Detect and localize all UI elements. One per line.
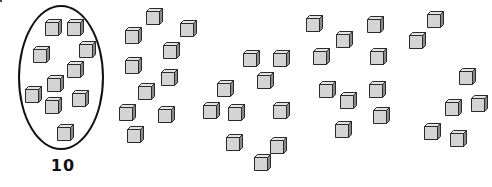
cube-icon bbox=[217, 80, 234, 97]
cube-icon bbox=[25, 86, 42, 103]
cube-icon bbox=[367, 16, 384, 33]
cube-icon bbox=[306, 15, 323, 32]
cube-icon bbox=[424, 123, 441, 140]
cube-icon bbox=[273, 50, 290, 67]
cube-icon bbox=[471, 95, 488, 112]
cube-icon bbox=[450, 130, 467, 147]
cube-icon bbox=[335, 121, 352, 138]
cube-icon bbox=[257, 72, 274, 89]
cube-icon bbox=[459, 68, 476, 85]
cube-icon bbox=[313, 48, 330, 65]
cube-icon bbox=[228, 104, 245, 121]
cube-icon bbox=[127, 126, 144, 143]
cube-icon bbox=[273, 102, 290, 119]
cube-icon bbox=[336, 31, 353, 48]
cube-icon bbox=[125, 27, 142, 44]
cube-icon bbox=[72, 90, 89, 107]
cube-icon bbox=[370, 48, 387, 65]
cube-icon bbox=[180, 20, 197, 37]
cube-icon bbox=[226, 134, 243, 151]
cube-icon bbox=[67, 61, 84, 78]
cube-icon bbox=[427, 11, 444, 28]
cube-icon bbox=[119, 104, 136, 121]
cube-icon bbox=[67, 19, 84, 36]
cube-icon bbox=[340, 92, 357, 109]
corner-mark bbox=[0, 0, 2, 2]
cube-icon bbox=[47, 75, 64, 92]
cube-icon bbox=[138, 83, 155, 100]
cube-icon bbox=[445, 99, 462, 116]
cube-icon bbox=[57, 124, 74, 141]
cube-icon bbox=[409, 32, 426, 49]
cube-icon bbox=[158, 106, 175, 123]
cube-icon bbox=[125, 57, 142, 74]
group-of-ten-label: 10 bbox=[48, 156, 78, 175]
cube-icon bbox=[33, 46, 50, 63]
cube-icon bbox=[45, 19, 62, 36]
cube-icon bbox=[161, 69, 178, 86]
cube-icon bbox=[254, 154, 271, 171]
cube-grouping-figure: 10 bbox=[0, 0, 492, 187]
cube-icon bbox=[319, 81, 336, 98]
cube-icon bbox=[203, 102, 220, 119]
cube-icon bbox=[243, 50, 260, 67]
cube-icon bbox=[163, 42, 180, 59]
cube-icon bbox=[373, 107, 390, 124]
cube-icon bbox=[45, 97, 62, 114]
cube-icon bbox=[270, 137, 287, 154]
cube-icon bbox=[146, 8, 163, 25]
cube-icon bbox=[369, 81, 386, 98]
cube-icon bbox=[79, 41, 96, 58]
